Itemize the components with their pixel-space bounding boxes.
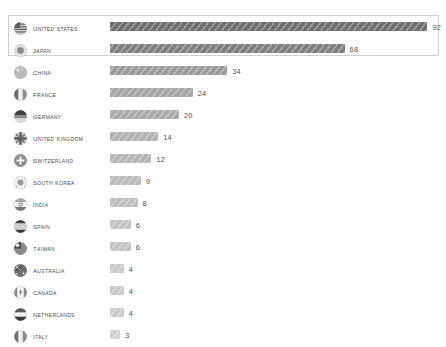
bar-value-label: 20 — [184, 111, 193, 120]
bar-value-label: 6 — [136, 221, 140, 230]
bar-value-label: 8 — [143, 199, 147, 208]
bar-value-label: 4 — [129, 287, 133, 296]
bar-track — [110, 286, 124, 295]
flag-taiwan-icon — [14, 242, 27, 255]
bar-row[interactable]: Australia4 — [0, 260, 446, 282]
bar[interactable] — [110, 264, 124, 273]
bar-row-label: United States — [33, 23, 78, 34]
bar-value-label: 92 — [432, 23, 441, 32]
bar-value-label: 24 — [198, 89, 207, 98]
bar-row-label: Taiwan — [33, 243, 55, 254]
bar[interactable] — [110, 110, 179, 119]
flag-switzerland-icon — [14, 154, 27, 167]
bar-value-label: 4 — [129, 309, 133, 318]
bar-row-label: Spain — [33, 221, 50, 232]
bar-row-label: Italy — [33, 331, 48, 342]
bar[interactable] — [110, 88, 193, 97]
bar-row[interactable]: Canada4 — [0, 282, 446, 304]
bar-value-label: 68 — [350, 45, 359, 54]
flag-netherlands-icon — [14, 308, 27, 321]
flag-united-states-icon — [14, 22, 27, 35]
bar-track — [110, 198, 138, 207]
flag-south-korea-icon — [14, 176, 27, 189]
bar-track — [110, 88, 193, 97]
bar-value-label: 3 — [125, 331, 129, 340]
bar-row-label: Japan — [33, 45, 51, 56]
bar-row[interactable]: Germany20 — [0, 106, 446, 128]
bar-track — [110, 66, 227, 75]
bar-row-label: India — [33, 199, 48, 210]
bar-track — [110, 264, 124, 273]
bar-value-label: 4 — [129, 265, 133, 274]
bar-row-label: United Kingdom — [33, 133, 83, 144]
bar-track — [110, 220, 131, 229]
flag-united-kingdom-icon — [14, 132, 27, 145]
bar-row[interactable]: Italy3 — [0, 326, 446, 347]
chart-title — [0, 0, 446, 1]
bar-row[interactable]: Spain6 — [0, 216, 446, 238]
flag-canada-icon — [14, 286, 27, 299]
bar-track — [110, 110, 179, 119]
bar-track — [110, 132, 158, 141]
bar-value-label: 9 — [146, 177, 150, 186]
bar-value-label: 34 — [232, 67, 241, 76]
bar-row-label: Switzerland — [33, 155, 73, 166]
bar-row[interactable]: Switzerland12 — [0, 150, 446, 172]
bar[interactable] — [110, 176, 141, 185]
bar-track — [110, 330, 120, 339]
bar-row-label: Germany — [33, 111, 62, 122]
bar-row[interactable]: South Korea9 — [0, 172, 446, 194]
bar[interactable] — [110, 132, 158, 141]
bar[interactable] — [110, 154, 151, 163]
flag-spain-icon — [14, 220, 27, 233]
bar[interactable] — [110, 330, 120, 339]
bar-row[interactable]: United States92 — [0, 18, 446, 40]
bar[interactable] — [110, 308, 124, 317]
flag-japan-icon — [14, 44, 27, 57]
bar[interactable] — [110, 242, 131, 251]
bar-row[interactable]: France24 — [0, 84, 446, 106]
bar-track — [110, 242, 131, 251]
bar-row-label: Netherlands — [33, 309, 75, 320]
bar-track — [110, 44, 345, 53]
bar-track — [110, 22, 427, 31]
bar-row[interactable]: Japan68 — [0, 40, 446, 62]
flag-germany-icon — [14, 110, 27, 123]
flag-france-icon — [14, 88, 27, 101]
bar-track — [110, 154, 151, 163]
bar-value-label: 6 — [136, 243, 140, 252]
flag-italy-icon — [14, 330, 27, 343]
bar[interactable] — [110, 286, 124, 295]
flag-china-icon — [14, 66, 27, 79]
bar-row[interactable]: India8 — [0, 194, 446, 216]
bar-row[interactable]: China34 — [0, 62, 446, 84]
bar-row-label: Canada — [33, 287, 57, 298]
bar-row-label: France — [33, 89, 56, 100]
bar-track — [110, 176, 141, 185]
bar[interactable] — [110, 44, 345, 53]
bar-value-label: 14 — [163, 133, 172, 142]
bar[interactable] — [110, 22, 427, 31]
bar-row[interactable]: United Kingdom14 — [0, 128, 446, 150]
flag-india-icon — [14, 198, 27, 211]
bar-row[interactable]: Taiwan6 — [0, 238, 446, 260]
bar-row-label: Australia — [33, 265, 65, 276]
bar[interactable] — [110, 220, 131, 229]
bar[interactable] — [110, 198, 138, 207]
bar[interactable] — [110, 66, 227, 75]
bar-row-label: China — [33, 67, 51, 78]
flag-australia-icon — [14, 264, 27, 277]
bar-value-label: 12 — [156, 155, 165, 164]
bar-row[interactable]: Netherlands4 — [0, 304, 446, 326]
bar-track — [110, 308, 124, 317]
bar-row-label: South Korea — [33, 177, 75, 188]
